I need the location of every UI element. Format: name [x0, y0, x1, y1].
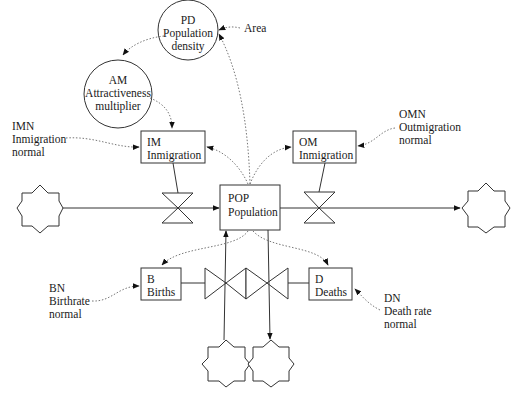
om-valve-link — [319, 163, 325, 192]
aux-label: Population — [163, 27, 213, 40]
const-label: Death rate — [384, 305, 432, 317]
const-omn: OMN Outmigration normal — [399, 108, 461, 146]
const-code: BN — [49, 282, 66, 294]
aux-label: Attractiveness — [85, 87, 151, 99]
const-label: Outmigration — [399, 121, 461, 134]
const-area: Area — [244, 22, 266, 34]
stock-code: POP — [228, 192, 249, 204]
im-valve-link — [173, 163, 178, 193]
const-label: normal — [384, 318, 417, 330]
flow-inmigration[interactable]: IM Inmigration — [141, 131, 205, 163]
const-dn: DN Death rate normal — [384, 292, 432, 330]
sink-cloud-icon — [462, 183, 510, 233]
flow-births[interactable]: B Births — [141, 268, 181, 300]
const-label: Birthrate — [49, 295, 90, 307]
const-code: OMN — [399, 108, 427, 120]
flow-code: B — [147, 273, 155, 285]
const-label: normal — [49, 308, 82, 320]
aux-label: density — [171, 40, 204, 53]
const-label: normal — [12, 146, 45, 158]
const-label: normal — [399, 134, 432, 146]
aux-label: multiplier — [95, 100, 141, 113]
flow-name: Deaths — [315, 286, 347, 298]
source-cloud-icon — [17, 185, 63, 233]
const-label: Inmigration — [12, 133, 67, 146]
aux-code: AM — [109, 74, 128, 86]
aux-population-density[interactable]: PD Population density — [158, 0, 218, 60]
const-imn: IMN Inmigration normal — [12, 120, 67, 158]
births-flow-line — [224, 231, 226, 340]
flow-deaths[interactable]: D Deaths — [309, 268, 352, 300]
flow-name: Inmigration — [299, 149, 354, 162]
const-code: IMN — [12, 120, 35, 132]
stock-population[interactable]: POP Population — [220, 185, 280, 230]
stock-flow-diagram: POP Population IM Inmigration OM Inmigra… — [0, 0, 517, 395]
aux-code: PD — [181, 14, 196, 26]
birth-source-cloud-icon — [202, 340, 250, 387]
flow-code: D — [315, 273, 323, 285]
death-sink-cloud-icon — [248, 340, 294, 387]
flow-code: IM — [147, 136, 161, 148]
const-code: DN — [384, 292, 401, 304]
stock-name: Population — [228, 206, 278, 219]
const-bn: BN Birthrate normal — [49, 282, 90, 320]
flow-outmigration[interactable]: OM Inmigration — [293, 131, 356, 163]
flow-name: Births — [147, 286, 176, 298]
deaths-valve-icon — [246, 268, 288, 299]
const-label: Area — [244, 22, 266, 34]
aux-attractiveness-multiplier[interactable]: AM Attractiveness multiplier — [84, 60, 152, 128]
flow-name: Inmigration — [147, 149, 202, 162]
flow-code: OM — [299, 136, 318, 148]
